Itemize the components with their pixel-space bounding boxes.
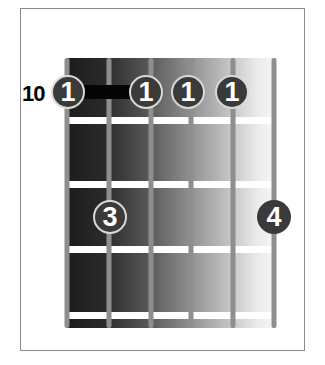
finger-dot-string-5: 1	[215, 75, 249, 109]
string-6	[272, 58, 277, 328]
finger-dot-string-1: 1	[51, 75, 85, 109]
start-fret-label: 10	[22, 81, 44, 107]
fret-line-4	[67, 312, 275, 319]
finger-dot-string-6: 4	[257, 200, 291, 234]
fret-line-1	[67, 117, 275, 124]
fret-line-3	[67, 246, 275, 253]
finger-dot-string-4: 1	[171, 75, 205, 109]
finger-dot-string-3: 1	[129, 75, 163, 109]
finger-dot-string-2: 3	[93, 200, 127, 234]
fret-line-2	[67, 181, 275, 188]
